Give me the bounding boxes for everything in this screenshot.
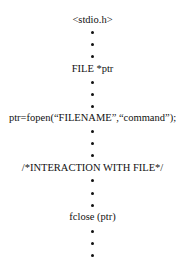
separator-dot xyxy=(91,142,94,145)
separator-dot xyxy=(91,43,94,46)
step-interact-with-file: /*INTERACTION WITH FILE*/ xyxy=(0,162,185,174)
step-open-file: ptr=fopen(“FILENAME”,“command”); xyxy=(0,112,185,124)
separator-dot xyxy=(91,230,94,233)
separator-dot xyxy=(91,179,94,182)
separator-dot xyxy=(91,242,94,245)
separator-dot xyxy=(91,31,94,34)
step-include-header: <stdio.h> xyxy=(0,14,185,26)
separator-dot xyxy=(91,154,94,157)
separator-dot xyxy=(91,105,94,108)
step-declare-file-pointer: FILE *ptr xyxy=(0,63,185,75)
separator-dot xyxy=(91,130,94,133)
separator-dot xyxy=(91,254,94,257)
separator-dot xyxy=(91,81,94,84)
separator-dot xyxy=(91,204,94,207)
separator-dot xyxy=(91,192,94,195)
separator-dot xyxy=(91,55,94,58)
step-close-file: fclose (ptr) xyxy=(0,211,185,223)
separator-dot xyxy=(91,93,94,96)
